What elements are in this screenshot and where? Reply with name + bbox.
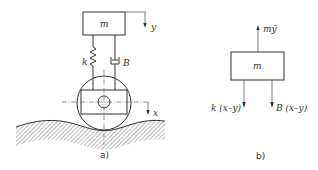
inertia-force-label: mÿ [263,24,278,34]
inertia-arrowhead-icon [256,25,259,30]
damper-force-arrowhead-icon [270,102,273,108]
spring-force-arrowhead-icon [242,102,245,108]
panel-b: mÿ m k (x–y) B (x–y) b) [211,24,308,161]
panel-a-caption: a) [100,150,109,160]
x-arrowhead-icon [146,110,149,115]
panel-a: m y k B [16,12,165,160]
spring-label: k [82,57,87,67]
spring-force-label: k (x–y) [211,103,241,113]
road-surface [16,120,165,149]
spring-icon [90,35,96,82]
damper-label: B [122,58,130,68]
mass-label-a: m [100,19,109,29]
y-arrowhead-icon [143,23,146,28]
damper-force-label: B (x–y) [275,103,308,113]
x-axis-label: x [153,108,158,118]
y-axis-label: y [150,22,157,32]
mass-label-b: m [253,61,262,71]
panel-b-caption: b) [256,151,265,161]
diagram-canvas: m y k B [0,0,318,170]
damper-icon [111,35,119,82]
